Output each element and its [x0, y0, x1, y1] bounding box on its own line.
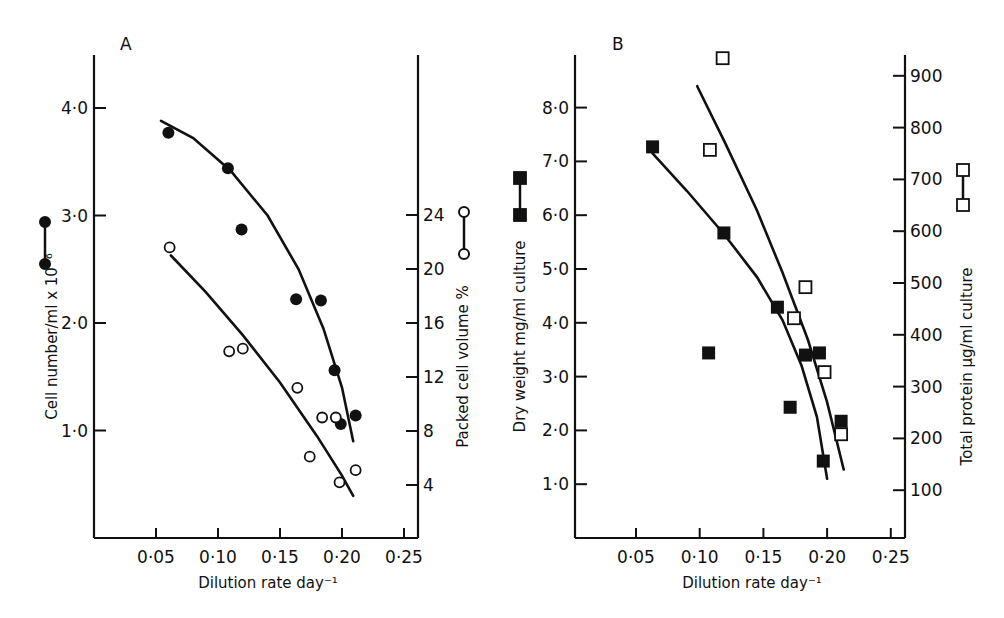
y-tick-label-left: 6·0 — [542, 205, 569, 225]
x-axis-label: Dilution rate day⁻¹ — [198, 574, 338, 592]
data-point-open-circle — [317, 413, 327, 423]
y-axis-label-left: Dry weight mg/ml culture — [511, 241, 529, 433]
data-point-filled-square — [771, 301, 784, 314]
panel-label: A — [120, 34, 132, 54]
data-point-open-square — [799, 281, 811, 293]
y-tick-label-right: 700 — [910, 169, 942, 189]
y-tick-label-left: 4·0 — [61, 98, 88, 118]
x-tick-label: 0·20 — [808, 547, 846, 567]
y-tick-label-left: 7·0 — [542, 151, 569, 171]
data-point-open-square — [704, 144, 716, 156]
data-point-open-circle — [224, 346, 234, 356]
data-point-filled-circle — [222, 162, 234, 174]
y-tick-label-right: 100 — [910, 480, 942, 500]
y-tick-label-right: 16 — [423, 313, 445, 333]
x-tick-label: 0·15 — [261, 547, 299, 567]
data-point-filled-circle — [290, 293, 302, 305]
x-axis-label: Dilution rate day⁻¹ — [682, 574, 822, 592]
x-tick-label: 0·20 — [323, 547, 361, 567]
legend-filled-square-icon — [514, 209, 526, 221]
figure: A0·050·100·150·200·25Dilution rate day⁻¹… — [0, 0, 1004, 618]
panel-b-chart: B0·050·100·150·200·25Dilution rate day⁻¹… — [511, 34, 976, 592]
y-tick-label-right: 900 — [910, 66, 942, 86]
fit-curve — [697, 86, 844, 469]
y-tick-label-right: 300 — [910, 377, 942, 397]
data-point-open-square — [788, 312, 800, 324]
y-tick-label-right: 200 — [910, 428, 942, 448]
y-tick-label-left: 1·0 — [61, 421, 88, 441]
x-tick-label: 0·05 — [137, 547, 175, 567]
data-point-filled-square — [646, 140, 659, 153]
data-point-filled-circle — [350, 409, 362, 421]
legend-filled-circle-icon — [40, 259, 50, 269]
data-point-filled-square — [702, 346, 715, 359]
legend-open-circle-icon — [459, 207, 469, 217]
data-point-open-square — [819, 366, 831, 378]
legend-filled-square-icon — [514, 172, 526, 184]
y-tick-label-left: 3·0 — [61, 206, 88, 226]
y-tick-label-left: 3·0 — [542, 367, 569, 387]
legend-filled-circle-icon — [40, 217, 50, 227]
y-tick-label-left: 4·0 — [542, 313, 569, 333]
legend-open-square-icon — [957, 199, 969, 211]
y-tick-label-right: 12 — [423, 367, 445, 387]
data-point-open-circle — [335, 477, 345, 487]
data-point-open-square — [835, 428, 847, 440]
y-tick-label-left: 2·0 — [542, 420, 569, 440]
legend-open-square-icon — [957, 164, 969, 176]
data-point-filled-square — [835, 415, 848, 428]
y-tick-label-right: 400 — [910, 325, 942, 345]
panel-a-chart: A0·050·100·150·200·25Dilution rate day⁻¹… — [40, 34, 472, 592]
data-point-filled-circle — [315, 294, 327, 306]
fit-curve — [161, 121, 353, 441]
data-point-open-circle — [351, 465, 361, 475]
y-tick-label-left: 5·0 — [542, 259, 569, 279]
fit-curve — [653, 153, 828, 479]
data-point-filled-circle — [236, 223, 248, 235]
x-tick-label: 0·10 — [681, 547, 719, 567]
data-point-filled-square — [717, 226, 730, 239]
data-point-filled-square — [813, 346, 826, 359]
data-point-open-circle — [238, 344, 248, 354]
data-point-filled-square — [784, 401, 797, 414]
y-axis-label-right: Total protein μg/ml culture — [958, 268, 976, 467]
y-tick-label-right: 24 — [423, 205, 445, 225]
data-point-filled-square — [817, 455, 830, 468]
data-point-open-circle — [165, 242, 175, 252]
panel-label: B — [612, 34, 624, 54]
y-axis-label-left: Cell number/ml x 10⁻⁶ — [43, 253, 61, 420]
data-point-open-circle — [305, 452, 315, 462]
y-tick-label-right: 4 — [423, 475, 434, 495]
x-tick-label: 0·10 — [199, 547, 237, 567]
fit-curve — [171, 256, 353, 496]
y-tick-label-left: 8·0 — [542, 98, 569, 118]
data-point-open-square — [717, 52, 729, 64]
legend-open-circle-icon — [459, 249, 469, 259]
y-tick-label-right: 20 — [423, 259, 445, 279]
y-tick-label-right: 8 — [423, 421, 434, 441]
x-tick-label: 0·25 — [385, 547, 423, 567]
data-point-filled-circle — [329, 364, 341, 376]
y-tick-label-left: 2·0 — [61, 313, 88, 333]
x-tick-label: 0·15 — [744, 547, 782, 567]
x-tick-label: 0·25 — [872, 547, 910, 567]
y-tick-label-left: 1·0 — [542, 474, 569, 494]
x-tick-label: 0·05 — [617, 547, 655, 567]
y-tick-label-right: 600 — [910, 221, 942, 241]
y-tick-label-right: 800 — [910, 118, 942, 138]
data-point-filled-circle — [162, 127, 174, 139]
y-axis-label-right: Packed cell volume % — [454, 285, 472, 448]
data-point-open-circle — [331, 413, 341, 423]
y-tick-label-right: 500 — [910, 273, 942, 293]
data-point-open-circle — [292, 383, 302, 393]
